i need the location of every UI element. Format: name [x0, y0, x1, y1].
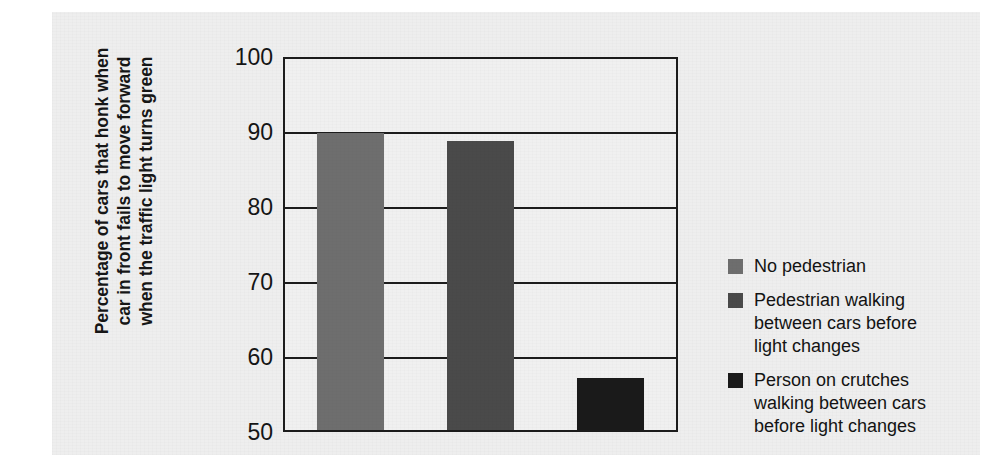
y-axis-title: Percentage of cars that honk when car in…	[91, 0, 157, 391]
bar-person-on-crutches	[577, 378, 644, 430]
plot-area	[283, 57, 678, 432]
legend-swatch-icon	[728, 259, 743, 274]
y-axis-tick-labels: 100 90 80 70 60 50	[207, 57, 273, 432]
figure-panel: Percentage of cars that honk when car in…	[52, 12, 980, 455]
y-tick-label-50: 50	[213, 419, 273, 446]
legend-swatch-icon	[728, 373, 743, 388]
legend-item-label: Pedestrian walking between cars before l…	[754, 289, 917, 358]
legend-item: No pedestrian	[728, 255, 978, 278]
y-tick-label-60: 60	[213, 344, 273, 371]
legend-item: Pedestrian walking between cars before l…	[728, 289, 978, 358]
y-tick-label-100: 100	[213, 44, 273, 71]
y-tick-label-80: 80	[213, 194, 273, 221]
bar-no-pedestrian	[317, 133, 384, 430]
legend-swatch-icon	[728, 293, 743, 308]
legend-item-label: Person on crutches walking between cars …	[754, 369, 926, 438]
bar-pedestrian-walking	[447, 141, 514, 430]
y-tick-label-70: 70	[213, 269, 273, 296]
legend-item: Person on crutches walking between cars …	[728, 369, 978, 438]
chart-legend: No pedestrian Pedestrian walking between…	[728, 255, 978, 449]
legend-item-label: No pedestrian	[754, 255, 866, 278]
y-tick-label-90: 90	[213, 119, 273, 146]
